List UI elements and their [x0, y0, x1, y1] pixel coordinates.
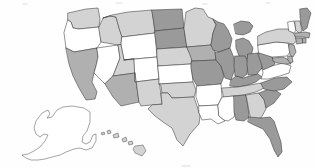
state-rhode-island[interactable] [303, 38, 306, 43]
map-figure [0, 0, 315, 168]
us-choropleth-map [0, 0, 315, 168]
state-indiana[interactable] [234, 56, 248, 78]
state-south-dakota[interactable] [155, 28, 187, 49]
state-arkansas[interactable] [196, 84, 222, 106]
state-massachusetts[interactable] [295, 32, 310, 38]
state-connecticut[interactable] [296, 38, 303, 44]
state-nebraska[interactable] [157, 47, 192, 66]
state-wyoming[interactable] [121, 33, 157, 60]
state-mississippi[interactable] [218, 96, 236, 121]
state-iowa[interactable] [187, 45, 216, 61]
state-north-dakota[interactable] [152, 9, 184, 31]
state-kansas[interactable] [158, 64, 193, 84]
